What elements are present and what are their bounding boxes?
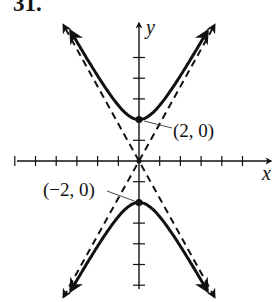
hyperbola-graph (0, 0, 277, 302)
y-axis-label: y (146, 16, 155, 39)
origin-point (137, 159, 142, 164)
x-axis-label: x (262, 162, 271, 185)
upper-vertex-point (136, 116, 143, 123)
lower-vertex-point (136, 199, 143, 206)
upper-vertex-label: (2, 0) (173, 120, 214, 142)
lower-vertex-label: (−2, 0) (43, 179, 95, 201)
